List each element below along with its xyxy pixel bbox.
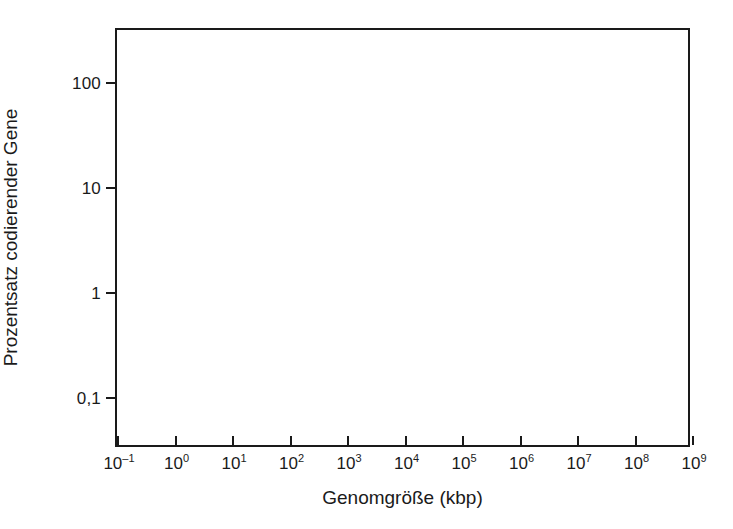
y-axis-tick: 0,1	[106, 397, 117, 399]
x-axis-tick-exponent: 3	[355, 452, 361, 464]
x-axis-tick-exponent: –1	[122, 452, 134, 464]
x-axis-tick-label: 108	[624, 454, 649, 474]
x-axis-tick-exponent: 4	[413, 452, 419, 464]
y-axis-tick: 100	[106, 82, 117, 84]
x-axis-tick-label: 105	[451, 454, 476, 474]
x-axis-tick-label: 102	[279, 454, 304, 474]
x-axis-tick-label: 107	[566, 454, 591, 474]
x-axis-tick-mantissa: 10	[279, 454, 298, 473]
x-axis-tick: 100	[175, 436, 177, 445]
x-axis-tick-exponent: 7	[585, 452, 591, 464]
x-axis-tick-mantissa: 10	[451, 454, 470, 473]
x-axis-tick: 107	[577, 436, 579, 445]
x-axis-tick-label: 106	[509, 454, 534, 474]
x-axis-tick: 106	[520, 436, 522, 445]
y-axis-tick-label: 0,1	[77, 389, 101, 409]
y-axis-tick: 1	[106, 292, 117, 294]
x-axis-tick-exponent: 1	[240, 452, 246, 464]
y-axis-tick-label: 1	[91, 284, 101, 304]
x-axis-tick: 104	[405, 436, 407, 445]
y-axis-tick-label: 100	[72, 74, 101, 94]
x-axis-tick-mantissa: 10	[509, 454, 528, 473]
x-axis-tick-exponent: 9	[700, 452, 706, 464]
x-axis-tick: 109	[692, 436, 694, 445]
x-axis-tick-mantissa: 10	[103, 454, 122, 473]
x-axis-tick-label: 104	[394, 454, 419, 474]
plot-area	[117, 30, 688, 445]
x-axis-tick-mantissa: 10	[164, 454, 183, 473]
x-axis-tick: 108	[635, 436, 637, 445]
x-axis-tick-label: 100	[164, 454, 189, 474]
x-axis-title: Genomgröße (kbp)	[115, 487, 690, 509]
plot-frame: 1001010,1 10–110010110210310410510610710…	[115, 28, 690, 447]
x-axis-tick: 102	[290, 436, 292, 445]
x-axis-tick: 10–1	[117, 436, 119, 445]
chart-figure: Prozentsatz codierender Gene 1001010,1 1…	[0, 0, 733, 529]
x-axis-tick-label: 10–1	[103, 454, 134, 474]
x-axis-tick-mantissa: 10	[566, 454, 585, 473]
x-axis-tick-label: 103	[336, 454, 361, 474]
x-axis-tick-exponent: 0	[183, 452, 189, 464]
x-axis-tick-mantissa: 10	[681, 454, 700, 473]
x-axis-tick-exponent: 6	[528, 452, 534, 464]
y-axis-tick: 10	[106, 187, 117, 189]
y-axis-tick-label: 10	[82, 179, 101, 199]
x-axis-tick-exponent: 2	[298, 452, 304, 464]
x-axis-tick: 103	[347, 436, 349, 445]
x-axis-tick-label: 101	[221, 454, 246, 474]
x-axis-tick-mantissa: 10	[336, 454, 355, 473]
x-axis-tick-mantissa: 10	[394, 454, 413, 473]
x-axis-tick: 105	[462, 436, 464, 445]
x-axis-tick-mantissa: 10	[624, 454, 643, 473]
x-axis-tick-exponent: 8	[643, 452, 649, 464]
x-axis-tick: 101	[232, 436, 234, 445]
x-axis-tick-label: 109	[681, 454, 706, 474]
x-axis-tick-mantissa: 10	[221, 454, 240, 473]
y-axis-title: Prozentsatz codierender Gene	[0, 28, 24, 447]
x-axis-tick-exponent: 5	[470, 452, 476, 464]
